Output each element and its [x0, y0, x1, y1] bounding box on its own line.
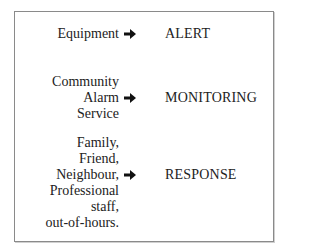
target-alert: ALERT — [165, 26, 210, 42]
source-line: staff, — [46, 199, 120, 215]
source-family-friend-neighbour: Family, Friend, Neighbour, Professional … — [46, 135, 120, 231]
source-line: Community — [52, 74, 119, 90]
source-equipment: Equipment — [58, 26, 119, 42]
source-community-alarm-service: Community Alarm Service — [52, 74, 119, 122]
right-arrow-icon — [123, 167, 137, 183]
source-line: Equipment — [58, 26, 119, 42]
source-line: Service — [52, 106, 119, 122]
source-line: Professional — [46, 183, 120, 199]
right-arrow-icon — [123, 90, 137, 106]
source-line: Friend, — [46, 151, 120, 167]
target-response: RESPONSE — [165, 167, 237, 183]
source-line: Neighbour, — [46, 167, 120, 183]
source-line: Alarm — [52, 90, 119, 106]
target-monitoring: MONITORING — [165, 90, 257, 106]
source-line: out-of-hours. — [46, 215, 120, 231]
source-line: Family, — [46, 135, 120, 151]
right-arrow-icon — [123, 26, 137, 42]
